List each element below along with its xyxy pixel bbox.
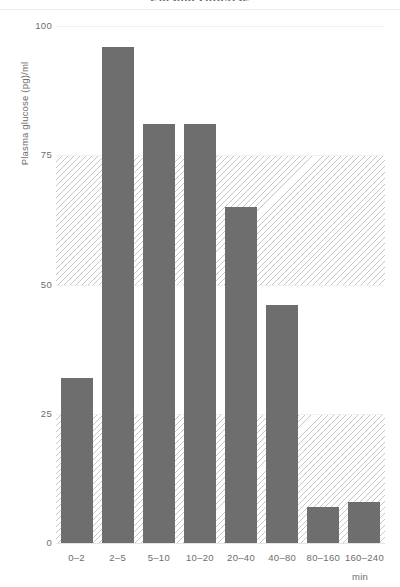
x-tick-label-40–80: 40–80	[268, 552, 296, 563]
title-divider	[0, 9, 400, 10]
bar-40–80	[266, 305, 298, 543]
bar-2–5	[102, 47, 134, 543]
y-tick-label-0: 0	[8, 538, 52, 548]
x-tick-label-10–20: 10–20	[186, 552, 214, 563]
y-tick-label-25: 25	[8, 409, 52, 419]
bar-10–20	[184, 124, 216, 543]
bar-5–10	[143, 124, 175, 543]
bar-80–160	[307, 507, 339, 543]
y-axis-label: Plasma glucose (pg)/ml	[19, 44, 30, 184]
x-tick-label-2–5: 2–5	[109, 552, 126, 563]
plot-area	[56, 26, 385, 543]
gridline-0	[56, 543, 385, 544]
bar-20–40	[225, 207, 257, 543]
y-tick-label-100: 100	[8, 21, 52, 31]
x-tick-label-5–10: 5–10	[148, 552, 170, 563]
x-axis-ticks: 0–22–55–1010–2020–4040–8080–160160–240	[56, 552, 385, 566]
y-tick-label-50: 50	[8, 280, 52, 290]
bar-series	[56, 26, 385, 543]
x-tick-label-0–2: 0–2	[68, 552, 85, 563]
x-tick-label-160–240: 160–240	[345, 552, 384, 563]
bar-160–240	[348, 502, 380, 543]
bar-0–2	[61, 378, 93, 543]
x-tick-label-80–160: 80–160	[307, 552, 341, 563]
x-tick-label-20–40: 20–40	[227, 552, 255, 563]
x-axis-unit-label: min	[352, 571, 368, 582]
y-tick-label-75: 75	[8, 151, 52, 161]
chart-title: Plasma Glucose	[0, 0, 400, 1]
